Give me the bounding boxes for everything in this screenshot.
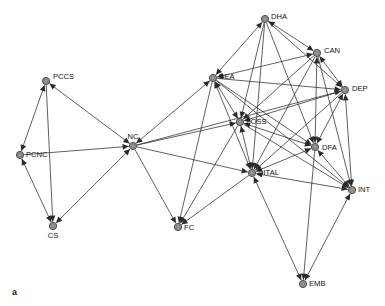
graph-node-can[interactable]	[313, 49, 320, 56]
edges-layer	[21, 21, 354, 280]
arrowhead-to-dea	[203, 81, 210, 87]
node-label-foss: FOSS	[246, 117, 267, 126]
arrowhead-to-foss	[240, 126, 246, 133]
node-label-int: INT	[358, 185, 371, 194]
node-circle-fc[interactable]	[174, 223, 181, 230]
node-label-dep: DEP	[352, 84, 368, 93]
network-figure: PCCSPCNCCSNCDEADHACANDEPFOSSDFADITALINTF…	[0, 0, 385, 306]
node-label-dha: DHA	[271, 12, 288, 21]
node-label-dital: DITAL	[258, 168, 279, 177]
arrowhead-to-foss	[232, 112, 238, 119]
arrowhead-to-can	[307, 45, 314, 51]
edge-cs-nc	[56, 149, 130, 223]
graph-node-foss[interactable]	[236, 118, 243, 125]
arrowhead-to-nc	[122, 144, 128, 150]
node-circle-dital[interactable]	[248, 169, 255, 176]
edge-dfa-emb	[303, 151, 314, 280]
edge-pccs-nc	[49, 84, 129, 144]
node-circle-cs[interactable]	[49, 222, 56, 229]
edge-dfa-int	[318, 150, 350, 187]
edge-can-dfa	[315, 57, 317, 143]
edge-dep-int	[345, 94, 351, 186]
node-circle-nc[interactable]	[129, 142, 136, 149]
edge-dital-fc	[181, 175, 248, 224]
node-label-dea: DEA	[219, 72, 236, 81]
edge-pcnc-pccs	[21, 85, 44, 151]
edge-dea-dep	[217, 78, 341, 89]
graph-node-emb[interactable]	[299, 280, 306, 287]
node-label-dfa: DFA	[322, 143, 338, 152]
edge-nc-fc	[135, 150, 176, 224]
graph-node-cs[interactable]	[49, 222, 56, 229]
arrowhead-to-pccs	[40, 85, 45, 92]
edge-nc-foss	[137, 123, 236, 145]
graph-node-dep[interactable]	[341, 86, 348, 93]
arrowhead-to-pccs	[49, 84, 56, 90]
node-label-emb: EMB	[309, 279, 325, 288]
arrowhead-to-dital	[241, 168, 248, 174]
graph-node-pccs[interactable]	[42, 77, 49, 84]
node-circle-dfa[interactable]	[311, 143, 318, 150]
edge-dital-emb	[254, 177, 302, 280]
edge-int-emb	[305, 194, 350, 281]
node-circle-emb[interactable]	[299, 280, 306, 287]
node-label-fc: FC	[184, 223, 195, 232]
edge-dep-dfa	[317, 94, 343, 144]
graph-node-dea[interactable]	[209, 74, 216, 81]
edge-nc-dital	[137, 147, 248, 172]
edge-dea-dha	[216, 22, 262, 75]
panel-letter: a	[12, 287, 17, 297]
node-label-pccs: PCCS	[53, 72, 74, 81]
edge-pcnc-cs	[22, 159, 51, 222]
node-circle-foss[interactable]	[236, 118, 243, 125]
edge-foss-dital	[241, 126, 251, 169]
network-graph-canvas: PCCSPCNCCSNCDEADHACANDEPFOSSDFADITALINTF…	[0, 0, 385, 306]
node-circle-dha[interactable]	[261, 15, 268, 22]
graph-node-dital[interactable]	[248, 169, 255, 176]
node-circle-dep[interactable]	[341, 86, 348, 93]
node-circle-can[interactable]	[313, 49, 320, 56]
node-circle-pccs[interactable]	[42, 77, 49, 84]
node-label-nc: NC	[128, 132, 139, 141]
node-circle-pcnc[interactable]	[16, 151, 23, 158]
node-label-cs: CS	[48, 231, 59, 240]
graph-node-dfa[interactable]	[311, 143, 318, 150]
node-circle-dea[interactable]	[209, 74, 216, 81]
edge-foss-fc	[180, 126, 238, 224]
graph-node-pcnc[interactable]	[16, 151, 23, 158]
edge-dea-fc	[179, 82, 212, 223]
graph-node-nc[interactable]	[129, 142, 136, 149]
graph-node-fc[interactable]	[174, 223, 181, 230]
node-label-pcnc: PCNC	[26, 150, 48, 159]
node-label-can: CAN	[324, 46, 340, 55]
node-circle-int[interactable]	[348, 186, 355, 193]
edge-nc-dea	[136, 81, 210, 144]
arrowhead-to-dep	[343, 94, 349, 100]
arrowhead-to-fc	[170, 217, 176, 224]
arrowhead-to-can	[320, 56, 326, 63]
arrowhead-to-dha	[269, 21, 276, 27]
graph-node-int[interactable]	[348, 186, 355, 193]
graph-node-dha[interactable]	[261, 15, 268, 22]
